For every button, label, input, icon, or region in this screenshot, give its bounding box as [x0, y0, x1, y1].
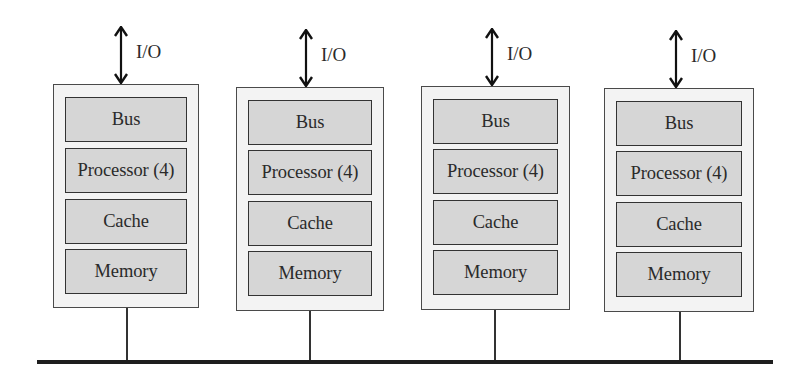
processor-component: Processor (4) — [248, 150, 372, 195]
node-4-network-link — [679, 312, 681, 361]
bus-component: Bus — [248, 100, 372, 145]
processor-component: Processor (4) — [433, 149, 558, 194]
cache-component: Cache — [616, 202, 742, 247]
io-arrow-icon — [114, 26, 128, 84]
io-arrow-icon — [669, 30, 683, 88]
node-3-network-link — [494, 310, 496, 361]
cache-component: Cache — [433, 200, 558, 245]
node-3: Bus Processor (4) Cache Memory — [421, 86, 570, 310]
node-2-network-link — [309, 311, 311, 361]
bus-component: Bus — [616, 101, 742, 146]
memory-component: Memory — [616, 252, 742, 297]
processor-component: Processor (4) — [616, 151, 742, 196]
io-label: I/O — [136, 41, 161, 63]
memory-component: Memory — [248, 251, 372, 296]
io-label: I/O — [321, 44, 346, 66]
io-label: I/O — [507, 43, 532, 65]
bus-component: Bus — [433, 99, 558, 144]
bus-component: Bus — [65, 97, 187, 142]
node-1-network-link — [126, 308, 128, 361]
node-1: Bus Processor (4) Cache Memory — [53, 84, 199, 308]
cache-component: Cache — [65, 199, 187, 244]
processor-component: Processor (4) — [65, 148, 187, 193]
io-label: I/O — [691, 45, 716, 67]
node-2: Bus Processor (4) Cache Memory — [236, 87, 384, 311]
cache-component: Cache — [248, 201, 372, 246]
io-arrow-icon — [299, 29, 313, 87]
interconnect-network-line — [37, 360, 773, 364]
io-arrow-icon — [485, 28, 499, 86]
memory-component: Memory — [65, 249, 187, 294]
memory-component: Memory — [433, 250, 558, 295]
node-4: Bus Processor (4) Cache Memory — [604, 88, 754, 312]
